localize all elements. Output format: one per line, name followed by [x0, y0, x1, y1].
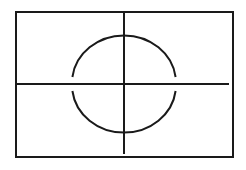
diagram-canvas	[0, 0, 246, 170]
diagram-svg	[0, 0, 246, 170]
